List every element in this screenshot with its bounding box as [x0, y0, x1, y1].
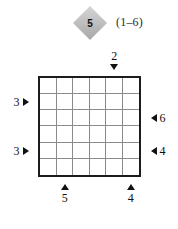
grid-cell[interactable]	[90, 78, 107, 94]
grid-cell[interactable]	[106, 143, 123, 159]
grid-cell[interactable]	[57, 159, 74, 175]
grid-cell[interactable]	[90, 110, 107, 126]
clue-value: 3	[14, 145, 20, 157]
grid-cell[interactable]	[73, 110, 90, 126]
grid-cell[interactable]	[40, 143, 57, 159]
grid-cell[interactable]	[73, 94, 90, 110]
grid-cell[interactable]	[73, 78, 90, 94]
arrow-up-icon	[61, 184, 69, 190]
grid-cell[interactable]	[57, 143, 74, 159]
grid-cell[interactable]	[73, 143, 90, 159]
clue-value: 3	[14, 96, 20, 108]
puzzle-board: 3364254	[0, 0, 178, 229]
arrow-left-icon	[151, 147, 157, 155]
clue-right: 4	[145, 144, 171, 158]
grid-cell[interactable]	[57, 78, 74, 94]
clue-bottom: 5	[57, 182, 73, 206]
grid-cell[interactable]	[40, 126, 57, 142]
clue-left: 3	[8, 144, 34, 158]
clue-left: 3	[8, 95, 34, 109]
grid-cell[interactable]	[40, 94, 57, 110]
clue-value: 5	[62, 192, 68, 204]
grid-cell[interactable]	[57, 94, 74, 110]
arrow-down-icon	[110, 64, 118, 70]
grid-cell[interactable]	[57, 126, 74, 142]
grid-cell[interactable]	[57, 110, 74, 126]
arrow-right-icon	[23, 147, 29, 155]
clue-top: 2	[106, 48, 122, 72]
grid-cell[interactable]	[90, 94, 107, 110]
arrow-up-icon	[127, 184, 135, 190]
clue-value: 2	[111, 50, 117, 62]
grid-cell[interactable]	[123, 94, 140, 110]
grid-cell[interactable]	[106, 159, 123, 175]
grid-cell[interactable]	[40, 78, 57, 94]
clue-bottom: 4	[123, 182, 139, 206]
grid-cell[interactable]	[73, 126, 90, 142]
grid-cell[interactable]	[90, 126, 107, 142]
grid-cell[interactable]	[73, 159, 90, 175]
grid-cell[interactable]	[123, 143, 140, 159]
clue-value: 6	[160, 112, 166, 124]
puzzle-grid	[38, 76, 141, 177]
grid-cell[interactable]	[106, 126, 123, 142]
grid-cell[interactable]	[123, 110, 140, 126]
grid-cell[interactable]	[106, 110, 123, 126]
grid-cell[interactable]	[123, 78, 140, 94]
clue-value: 4	[160, 145, 166, 157]
grid-cell[interactable]	[90, 143, 107, 159]
arrow-right-icon	[23, 98, 29, 106]
grid-cell[interactable]	[90, 159, 107, 175]
grid-cell[interactable]	[123, 126, 140, 142]
grid-cell[interactable]	[40, 159, 57, 175]
grid-cell[interactable]	[106, 78, 123, 94]
clue-right: 6	[145, 111, 171, 125]
clue-value: 4	[128, 192, 134, 204]
grid-cell[interactable]	[123, 159, 140, 175]
grid-cell[interactable]	[106, 94, 123, 110]
grid-cell[interactable]	[40, 110, 57, 126]
arrow-left-icon	[151, 114, 157, 122]
